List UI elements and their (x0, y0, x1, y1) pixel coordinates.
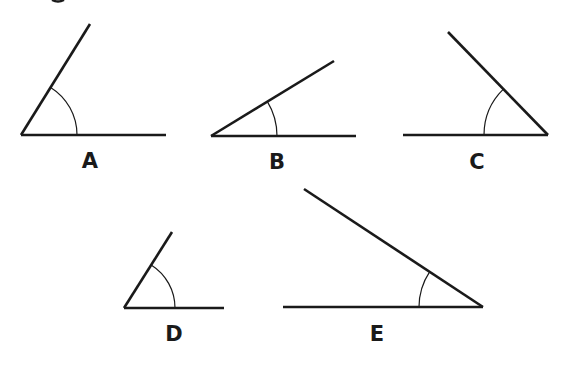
angle-c-label: C (469, 150, 484, 174)
angle-d-label: D (165, 322, 182, 346)
angle-b-label: B (269, 150, 285, 174)
angle-d-arc-marker (151, 265, 175, 308)
angle-a-ray-line (21, 24, 90, 135)
angle-c: C (403, 32, 548, 174)
angle-b: B (211, 61, 356, 174)
angle-e-label: E (370, 322, 384, 346)
angle-c-ray-line (448, 32, 548, 135)
angle-d-ray-line (124, 232, 172, 308)
angle-a-label: A (82, 149, 99, 173)
angle-d: D (124, 232, 224, 346)
angle-b-ray-line (211, 61, 334, 136)
angle-b-arc-marker (267, 102, 277, 136)
angle-e-ray-line (304, 189, 483, 307)
angle-c-arc-marker (484, 89, 503, 135)
diagram-canvas: A B C D E (0, 0, 562, 365)
angle-a: A (21, 24, 166, 173)
cropped-glyph-fragment (52, 0, 64, 2)
angle-a-arc-marker (51, 87, 77, 135)
angles-diagram: A B C D E (0, 0, 562, 365)
angle-e-arc-marker (419, 272, 430, 307)
angle-e: E (283, 189, 483, 346)
